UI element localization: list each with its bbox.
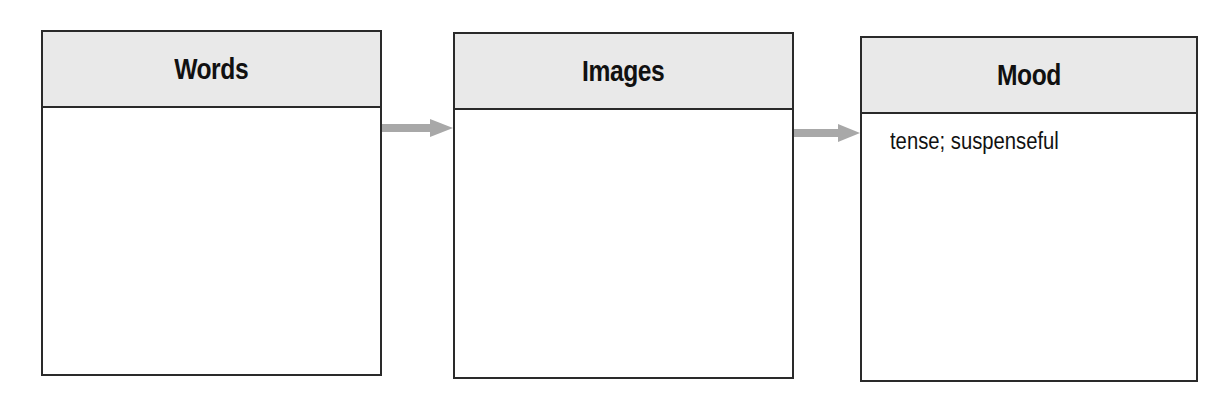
box-mood-content: tense; suspenseful bbox=[890, 128, 1059, 155]
box-images-body bbox=[455, 110, 792, 151]
box-mood: Mood tense; suspenseful bbox=[860, 36, 1198, 382]
box-mood-body: tense; suspenseful bbox=[862, 114, 1196, 155]
box-words-body bbox=[43, 108, 380, 149]
box-words: Words bbox=[41, 30, 382, 376]
box-mood-header: Mood bbox=[862, 38, 1196, 114]
arrow-words-to-images bbox=[382, 118, 454, 138]
box-images-header: Images bbox=[455, 34, 792, 110]
box-mood-title: Mood bbox=[997, 58, 1061, 92]
box-words-title: Words bbox=[174, 52, 248, 86]
box-images-title: Images bbox=[582, 54, 664, 88]
box-words-header: Words bbox=[43, 32, 380, 108]
box-images: Images bbox=[453, 32, 794, 379]
arrow-images-to-mood bbox=[794, 123, 861, 143]
